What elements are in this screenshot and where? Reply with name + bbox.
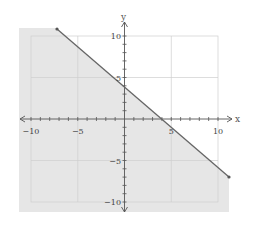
y-tick-label: −5 (109, 157, 121, 166)
y-tick-label: 10 (111, 32, 121, 41)
x-tick-label: −10 (23, 127, 40, 136)
y-axis-label: y (120, 12, 127, 22)
y-tick-label: 5 (116, 74, 121, 83)
line-endpoint-upper (55, 27, 58, 30)
inequality-graph: −10 −5 5 10 10 5 −5 −10 x y (0, 0, 253, 227)
y-tick-label: −10 (104, 198, 121, 207)
x-tick-label: 5 (169, 127, 174, 136)
line-endpoint-lower (227, 175, 230, 178)
shaded-region (19, 28, 229, 212)
x-axis-label: x (235, 114, 240, 124)
x-tick-label: 10 (213, 127, 223, 136)
x-tick-label: −5 (72, 127, 84, 136)
